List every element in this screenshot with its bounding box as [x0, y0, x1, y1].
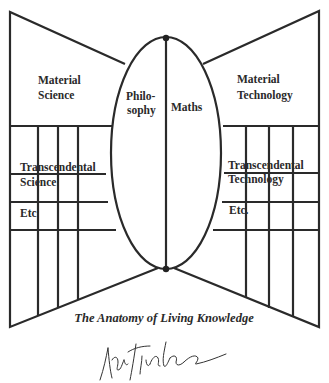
central-oval: Philo- sophy Maths	[111, 35, 221, 272]
right-low-label: Etc.	[229, 204, 249, 216]
right-mid-label: Technology	[228, 173, 284, 186]
right-panel: Material Technology Transcendental Techn…	[174, 11, 319, 327]
left-low-label: Etc	[20, 207, 37, 219]
left-panel: Material Science Transcendental Science …	[10, 12, 158, 327]
right-top-label: Technology	[237, 89, 293, 102]
philosophy-label: sophy	[127, 104, 156, 117]
diagram-title: The Anatomy of Living Knowledge	[74, 311, 254, 325]
top-node-dot	[163, 35, 169, 41]
right-mid-label: Transcendental	[228, 159, 304, 171]
bottom-node-dot	[163, 266, 169, 272]
left-top-label: Material	[38, 74, 81, 86]
left-mid-label: Transcendental	[20, 161, 96, 173]
philosophy-label: Philo-	[126, 90, 156, 102]
right-top-label: Material	[237, 73, 280, 85]
maths-label: Maths	[171, 101, 203, 113]
anatomy-of-living-knowledge-diagram: Material Science Transcendental Science …	[0, 0, 329, 383]
left-top-label: Science	[38, 89, 74, 101]
left-mid-label: Science	[20, 176, 56, 188]
signature	[100, 342, 226, 380]
